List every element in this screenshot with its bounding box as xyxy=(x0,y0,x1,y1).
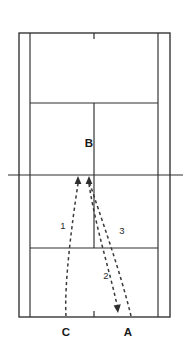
path-label-2: 2 xyxy=(103,270,108,281)
arrowhead-up-3-icon xyxy=(86,176,93,184)
trajectory-path-2 xyxy=(89,184,117,305)
trajectory-path-3 xyxy=(90,184,131,316)
trajectory-path-1 xyxy=(66,184,78,316)
point-label-c: C xyxy=(62,326,70,338)
arrowhead-up-1-icon xyxy=(75,176,82,184)
tennis-court-diagram: B C A 1 2 3 xyxy=(0,0,189,354)
path-label-3: 3 xyxy=(119,225,124,236)
court-svg: B C A 1 2 3 xyxy=(0,0,189,354)
point-label-b: B xyxy=(85,137,93,149)
point-label-a: A xyxy=(124,326,132,338)
path-label-1: 1 xyxy=(60,220,65,231)
arrowhead-down-2-icon xyxy=(114,304,121,313)
